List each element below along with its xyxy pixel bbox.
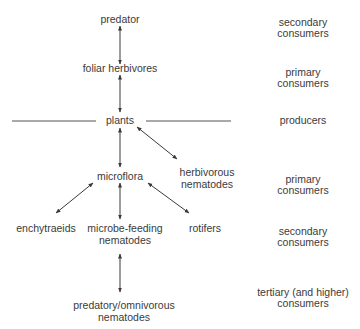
node-herbivorous-nematodes-line1: herbivorous <box>180 166 235 178</box>
level-label-primary-1b: consumers <box>277 77 328 89</box>
level-label-secondary-1b: consumers <box>277 27 328 39</box>
food-web-diagram: predator foliar herbivores plants microf… <box>0 0 360 329</box>
node-microbe-feeding-nematodes-line1: microbe-feeding <box>87 222 162 234</box>
node-microbe-feeding-nematodes-line2: nematodes <box>99 234 151 246</box>
node-predatory-omnivorous-line1: predatory/omnivorous <box>73 299 175 311</box>
node-foliar-herbivores: foliar herbivores <box>83 62 158 74</box>
level-label-secondary-2b: consumers <box>277 236 328 248</box>
level-label-primary-2b: consumers <box>277 184 328 196</box>
node-microflora: microflora <box>97 170 143 182</box>
arrow-plants-herbivorous <box>137 127 177 159</box>
arrow-microflora-enchytraeids <box>56 183 93 213</box>
node-rotifers: rotifers <box>189 222 221 234</box>
node-predatory-omnivorous-line2: nematodes <box>98 311 150 323</box>
node-plants: plants <box>106 114 134 126</box>
node-predator: predator <box>100 13 140 25</box>
node-enchytraeids: enchytraeids <box>16 222 76 234</box>
level-label-tertiary-b: consumers <box>277 297 328 309</box>
level-label-producers: producers <box>280 114 327 126</box>
node-herbivorous-nematodes-line2: nematodes <box>181 178 233 190</box>
